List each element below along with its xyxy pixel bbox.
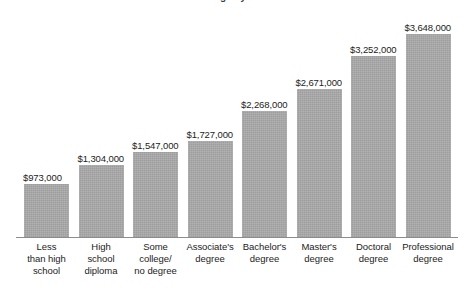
category-label-line: degree [345,253,402,265]
category-label-line: High [73,241,130,253]
bar-value-label: $1,727,000 [187,129,234,140]
bar[interactable] [406,34,451,238]
category-label-line: than high [18,253,75,265]
bar[interactable] [79,165,124,238]
category-label-line: degree [182,253,239,265]
category-label-line: Bachelor's [236,241,293,253]
category-label: Associate'sdegree [182,241,239,265]
bar-value-label: $1,547,000 [132,140,179,151]
bar-group: $3,252,000 [351,43,396,238]
category-label-line: degree [400,253,457,265]
bar-value-label: $973,000 [23,172,62,183]
plot-area: $973,000$1,304,000$1,547,000$1,727,000$2… [0,0,470,238]
bar[interactable] [297,89,342,238]
bar-value-label: $3,252,000 [350,44,397,55]
category-label-line: school [73,253,130,265]
bar[interactable] [351,56,396,238]
category-label-line: Doctoral [345,241,402,253]
bar-group: $973,000 [24,171,69,238]
x-axis-line [16,237,458,238]
bar-chart: Lifetime earnings by education level $97… [0,0,470,296]
bar-value-label: $3,648,000 [405,22,452,33]
bar-value-label: $2,268,000 [241,99,288,110]
bar-value-label: $2,671,000 [296,77,343,88]
bar-group: $2,268,000 [242,98,287,238]
category-label-line: diploma [73,265,130,277]
category-label: Doctoraldegree [345,241,402,265]
category-label-line: Associate's [182,241,239,253]
bar[interactable] [24,184,69,238]
category-label-line: Some [127,241,184,253]
category-label-line: Professional [400,241,457,253]
category-label: Lessthan highschool [18,241,75,277]
category-label-line: school [18,265,75,277]
category-label: Bachelor'sdegree [236,241,293,265]
bar-group: $1,547,000 [133,139,178,239]
category-label-line: no degree [127,265,184,277]
bar-group: $1,727,000 [188,128,233,238]
category-label-line: college/ [127,253,184,265]
bar[interactable] [188,141,233,238]
category-label: Somecollege/no degree [127,241,184,277]
category-label-line: Master's [291,241,348,253]
bar-group: $2,671,000 [297,76,342,238]
bar[interactable] [242,111,287,238]
category-label-line: Less [18,241,75,253]
category-label: Professionaldegree [400,241,457,265]
category-label: Highschooldiploma [73,241,130,277]
category-label-line: degree [236,253,293,265]
bar[interactable] [133,152,178,239]
bar-value-label: $1,304,000 [78,153,125,164]
category-axis: Lessthan highschoolHighschooldiplomaSome… [0,241,470,286]
category-label-line: degree [291,253,348,265]
bar-group: $1,304,000 [79,152,124,238]
bar-group: $3,648,000 [406,21,451,238]
category-label: Master'sdegree [291,241,348,265]
